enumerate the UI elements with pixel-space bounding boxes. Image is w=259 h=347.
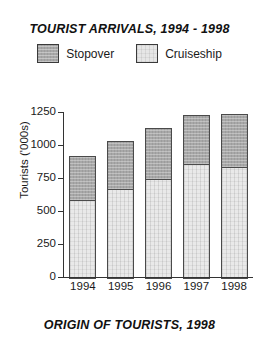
- bar-stack: [69, 156, 96, 278]
- stopover-swatch-icon: [37, 44, 59, 63]
- bar-stack: [145, 128, 172, 278]
- legend-item-stopover: Stopover: [37, 44, 114, 63]
- bar-segment-cruiseship[interactable]: [221, 167, 248, 279]
- x-tick-label: 1995: [102, 280, 140, 292]
- bar-segment-cruiseship[interactable]: [145, 179, 172, 279]
- bar-segment-stopover[interactable]: [221, 114, 248, 167]
- x-tick-label: 1996: [140, 280, 178, 292]
- y-tick-label: 500: [22, 205, 56, 217]
- page-title: TOURIST ARRIVALS, 1994 - 1998: [0, 22, 259, 36]
- chart-caption: ORIGIN OF TOURISTS, 1998: [0, 318, 259, 332]
- bar-segment-cruiseship[interactable]: [183, 164, 210, 279]
- bar-segment-stopover[interactable]: [69, 156, 96, 201]
- y-tick-label: 0: [22, 271, 56, 283]
- x-tick-label: 1997: [177, 280, 215, 292]
- x-tick-label: 1998: [215, 280, 253, 292]
- y-tick-label: 1000: [22, 139, 56, 151]
- bar-stack: [107, 141, 134, 278]
- bar-stack: [221, 114, 248, 278]
- legend-label-cruiseship: Cruiseship: [165, 47, 222, 61]
- x-tick-label: 1994: [64, 280, 102, 292]
- bar-series-group: [64, 70, 253, 278]
- y-axis-tick-labels: 125010007505002500: [20, 70, 56, 295]
- x-axis-tick-labels: 19941995199619971998: [64, 280, 253, 298]
- chart-plot-area: Tourists ('000s) 125010007505002500 1994…: [0, 70, 259, 295]
- y-tick-label: 750: [22, 172, 56, 184]
- y-tick-label: 1250: [22, 106, 56, 118]
- legend-item-cruiseship: Cruiseship: [136, 44, 222, 63]
- bar-segment-stopover[interactable]: [183, 115, 210, 165]
- bar-segment-cruiseship[interactable]: [69, 200, 96, 279]
- bar-segment-stopover[interactable]: [107, 141, 134, 190]
- bar-segment-cruiseship[interactable]: [107, 189, 134, 279]
- x-axis-line: [63, 277, 253, 278]
- chart-legend: Stopover Cruiseship: [0, 44, 259, 63]
- cruiseship-swatch-icon: [136, 44, 158, 63]
- legend-label-stopover: Stopover: [66, 47, 114, 61]
- bar-stack: [183, 115, 210, 278]
- bar-segment-stopover[interactable]: [145, 128, 172, 179]
- y-tick-label: 250: [22, 238, 56, 250]
